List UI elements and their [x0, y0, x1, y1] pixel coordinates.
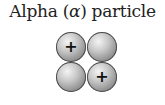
title-prefix: Alpha (	[9, 1, 69, 21]
plus-charge-icon: +	[64, 39, 77, 55]
proton-sphere: +	[56, 32, 86, 62]
proton-sphere: +	[87, 62, 117, 92]
title-suffix: ) particle	[80, 1, 155, 21]
plus-charge-icon: +	[95, 69, 108, 85]
alpha-particle-nucleus: + +	[56, 32, 118, 94]
neutron-sphere	[87, 32, 117, 62]
alpha-symbol: α	[69, 1, 80, 21]
diagram-title: Alpha (α) particle	[0, 0, 165, 22]
neutron-sphere	[56, 62, 86, 92]
